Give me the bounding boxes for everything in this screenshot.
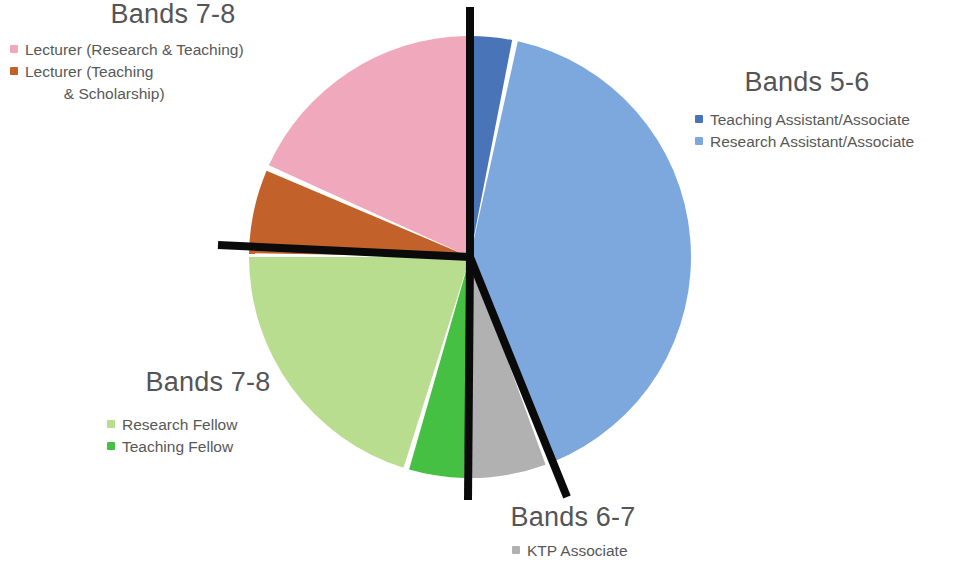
legend-item-label: Research Assistant/Associate	[710, 131, 914, 153]
legend-swatch-icon	[695, 115, 703, 123]
legend-title-bands-7-8-lecturer: Bands 7-8	[8, 0, 338, 30]
legend-item-list: Research Fellow Teaching Fellow	[107, 414, 360, 458]
legend-item[interactable]: Lecturer (Research & Teaching)	[10, 39, 345, 61]
legend-item-label: Lecturer (Teaching & Scholarship)	[25, 61, 165, 105]
legend-item-label: Lecturer (Research & Teaching)	[25, 39, 244, 61]
legend-item[interactable]: Research Fellow	[107, 414, 360, 436]
legend-swatch-icon	[10, 45, 18, 53]
legend-item[interactable]: Lecturer (Teaching & Scholarship)	[10, 61, 345, 105]
legend-item[interactable]: Teaching Fellow	[107, 436, 360, 458]
legend-item[interactable]: KTP Associate	[512, 540, 750, 562]
legend-bands-5-6: Bands 5-6 Teaching Assistant/Associate R…	[664, 68, 954, 153]
legend-item-list: KTP Associate	[512, 540, 750, 562]
axis-divider-line	[468, 257, 470, 500]
legend-item-label: KTP Associate	[527, 540, 628, 562]
legend-item-label: Teaching Assistant/Associate	[710, 109, 910, 131]
legend-item[interactable]: Teaching Assistant/Associate	[695, 109, 954, 131]
legend-item-label: Research Fellow	[122, 414, 237, 436]
legend-item-list: Teaching Assistant/Associate Research As…	[695, 109, 954, 153]
legend-swatch-icon	[10, 67, 18, 75]
legend-swatch-icon	[107, 420, 115, 428]
legend-swatch-icon	[107, 442, 115, 450]
legend-item[interactable]: Research Assistant/Associate	[695, 131, 954, 153]
legend-bands-6-7: Bands 6-7 KTP Associate	[450, 503, 750, 562]
pie-chart-figure: Bands 7-8 Lecturer (Research & Teaching)…	[0, 0, 954, 573]
legend-title-bands-6-7: Bands 6-7	[450, 503, 696, 533]
legend-item-list: Lecturer (Research & Teaching) Lecturer …	[10, 39, 345, 105]
legend-title-bands-5-6: Bands 5-6	[664, 68, 950, 98]
legend-item-label: Teaching Fellow	[122, 436, 233, 458]
legend-swatch-icon	[695, 137, 703, 145]
legend-title-bands-7-8-fellow: Bands 7-8	[60, 368, 356, 398]
legend-bands-7-8-fellow: Bands 7-8 Research Fellow Teaching Fello…	[60, 368, 360, 458]
legend-bands-7-8-lecturer: Bands 7-8 Lecturer (Research & Teaching)…	[0, 0, 345, 105]
legend-swatch-icon	[512, 546, 520, 554]
